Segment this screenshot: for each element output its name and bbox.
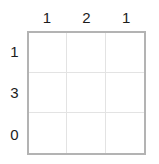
grid-cell[interactable] [106, 73, 144, 113]
column-clues: 1 2 1 [27, 6, 146, 29]
column-clue-1: 1 [27, 6, 67, 29]
grid-cell[interactable] [29, 73, 67, 113]
row-clue-1: 1 [4, 31, 25, 72]
row-clue-3: 0 [4, 114, 25, 155]
row-clue-2: 3 [4, 72, 25, 113]
column-clue-2: 2 [67, 6, 107, 29]
grid-cell[interactable] [106, 113, 144, 153]
column-clue-3: 1 [106, 6, 146, 29]
row-clues: 1 3 0 [4, 31, 25, 155]
grid-cell[interactable] [67, 33, 105, 73]
puzzle-grid [27, 31, 146, 155]
grid-cell[interactable] [29, 33, 67, 73]
nonogram-puzzle: 1 2 1 1 3 0 [0, 0, 159, 164]
grid-cell[interactable] [29, 113, 67, 153]
grid-cell[interactable] [67, 113, 105, 153]
grid-cell[interactable] [67, 73, 105, 113]
grid-cell[interactable] [106, 33, 144, 73]
